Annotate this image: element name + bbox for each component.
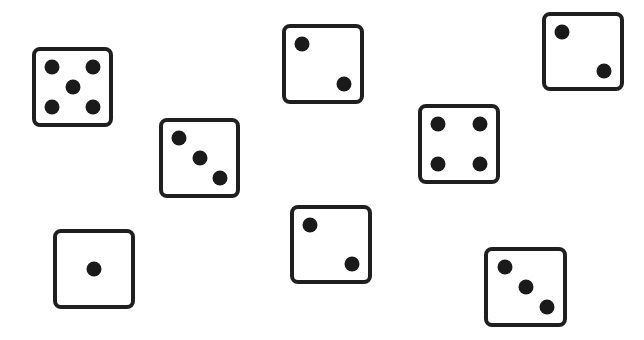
pip-dot-icon — [85, 100, 100, 115]
pip-dot-icon — [497, 259, 512, 274]
die-face-3 — [484, 247, 567, 327]
pip-dot-icon — [192, 151, 207, 166]
pip-dot-icon — [555, 24, 570, 39]
die-face-2 — [282, 24, 364, 104]
die-face-5 — [32, 47, 113, 127]
die-face-4 — [418, 104, 500, 184]
pip-dot-icon — [212, 171, 227, 186]
pip-dot-icon — [539, 300, 554, 315]
die-face-1 — [53, 229, 135, 309]
pip-dot-icon — [336, 77, 351, 92]
pip-dot-icon — [431, 157, 446, 172]
pip-dot-icon — [85, 59, 100, 74]
pip-dot-icon — [45, 59, 60, 74]
pip-dot-icon — [596, 64, 611, 79]
pip-dot-icon — [344, 257, 359, 272]
pip-dot-icon — [87, 262, 102, 277]
pip-dot-icon — [518, 280, 533, 295]
die-face-3 — [159, 118, 240, 198]
pip-dot-icon — [295, 36, 310, 51]
die-face-2 — [542, 12, 624, 91]
pip-dot-icon — [65, 80, 80, 95]
pip-dot-icon — [431, 116, 446, 131]
pip-dot-icon — [172, 130, 187, 145]
die-face-2 — [290, 205, 372, 284]
pip-dot-icon — [303, 217, 318, 232]
pip-dot-icon — [45, 100, 60, 115]
pip-dot-icon — [472, 157, 487, 172]
pip-dot-icon — [472, 116, 487, 131]
